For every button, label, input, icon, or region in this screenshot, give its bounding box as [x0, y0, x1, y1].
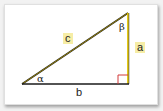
label-b: b: [76, 86, 82, 98]
right-angle-marker: [118, 75, 128, 84]
angle-beta: β: [119, 21, 125, 32]
label-a: a: [137, 41, 144, 53]
angle-alpha: α: [37, 73, 44, 84]
label-c: c: [65, 32, 71, 44]
right-triangle-diagram: c a b α β: [0, 0, 162, 110]
